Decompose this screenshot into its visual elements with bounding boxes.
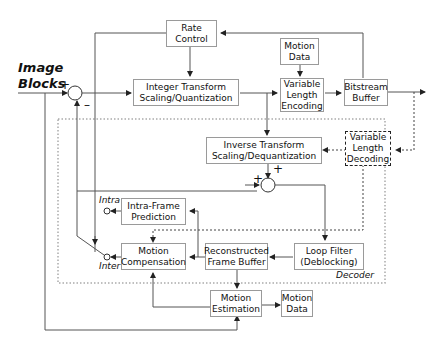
sum2-plus-left-sign: +	[253, 174, 263, 185]
sum2-plus-top-sign: +	[273, 164, 283, 175]
integer-transform-block: Integer Transform Scaling/Quantization	[133, 79, 239, 106]
rate-control-block: Rate Control	[166, 20, 217, 47]
vld-block: Variable Length Decoding	[345, 131, 391, 166]
vlc-block: Variable Length Encoding	[280, 78, 324, 112]
bitstream-buffer-block: Bitstream Buffer	[344, 79, 388, 106]
frame-buffer-block: Reconstructed Frame Buffer	[205, 243, 268, 270]
loop-filter-block: Loop Filter (Deblocking)	[294, 243, 364, 270]
motion-data-top-block: Motion Data	[280, 38, 319, 65]
summer-1	[68, 86, 82, 100]
sum1-minus-sign: –	[84, 100, 90, 111]
motion-data-bottom-block: Motion Data	[281, 290, 313, 317]
input-label: Image Blocks	[18, 60, 65, 92]
summer-2	[261, 178, 275, 192]
motion-estimation-block: Motion Estimation	[210, 290, 262, 317]
inverse-transform-block: Inverse Transform Scaling/Dequantization	[206, 137, 322, 164]
motion-compensation-block: Motion Compensation	[121, 243, 186, 270]
decoder-label: Decoder	[336, 270, 374, 281]
intra-switch-label: Intra	[99, 195, 120, 206]
sum1-plus-sign: +	[60, 80, 70, 91]
inter-switch-label: Inter	[99, 261, 120, 272]
intra-prediction-block: Intra-Frame Prediction	[121, 198, 186, 225]
